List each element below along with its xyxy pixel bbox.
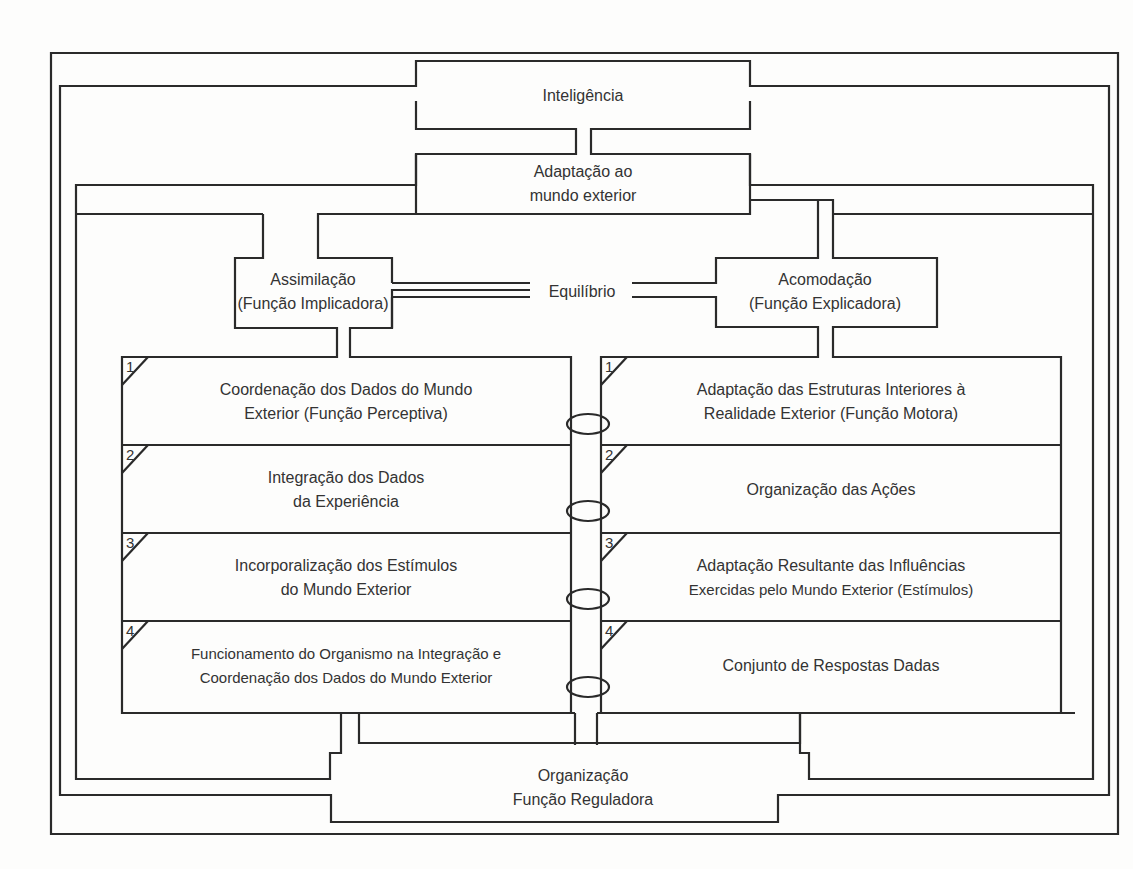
organization-label-1: Organização: [538, 764, 629, 788]
diagram-canvas: Inteligência Adaptação ao mundo exterior…: [0, 0, 1133, 869]
left-row-1-line2: Exterior (Função Perceptiva): [244, 402, 448, 426]
adaptation-label-2: mundo exterior: [530, 184, 637, 208]
right-row-3-line2: Exercidas pelo Mundo Exterior (Estímulos…: [689, 578, 973, 602]
left-row-4-line1: Funcionamento do Organismo na Integração…: [191, 642, 501, 666]
accommodation-label-1: Acomodação: [778, 268, 871, 292]
right-row-3-number: 3: [605, 534, 613, 551]
left-row-2-line1: Integração dos Dados: [268, 466, 425, 490]
left-row-3-number: 3: [126, 534, 134, 551]
right-row-4-line1: Conjunto de Respostas Dadas: [722, 654, 939, 678]
left-row-2-number: 2: [126, 446, 134, 463]
right-row-1-line2: Realidade Exterior (Função Motora): [704, 402, 958, 426]
right-row-4-number: 4: [605, 622, 613, 639]
assimilation-label-1: Assimilação: [270, 268, 355, 292]
right-row-3-line1: Adaptação Resultante das Influências: [697, 554, 966, 578]
organization-inner-box: [359, 713, 800, 743]
equilibrium-label: Equilíbrio: [549, 280, 616, 304]
left-row-2-line2: da Experiência: [293, 490, 399, 514]
right-row-2-number: 2: [605, 446, 613, 463]
accommodation-label-2: (Função Explicadora): [749, 292, 901, 316]
left-row-3-line1: Incorporalização dos Estímulos: [235, 554, 457, 578]
adaptation-label-1: Adaptação ao: [534, 160, 633, 184]
ring-connectors: [567, 414, 609, 697]
right-row-1-number: 1: [605, 358, 613, 375]
organization-label-2: Função Reguladora: [513, 788, 654, 812]
right-row-1-line1: Adaptação das Estruturas Interiores à: [697, 378, 966, 402]
assimilation-label-2: (Função Implicadora): [237, 292, 388, 316]
left-row-3-line2: do Mundo Exterior: [281, 578, 412, 602]
left-row-1-number: 1: [126, 358, 134, 375]
left-row-4-number: 4: [126, 622, 134, 639]
left-row-1-line1: Coordenação dos Dados do Mundo: [220, 378, 473, 402]
intelligence-label: Inteligência: [543, 84, 624, 108]
left-corner-slashes: [122, 357, 148, 649]
right-row-2-line1: Organização das Ações: [747, 478, 916, 502]
diagram-lines: [0, 0, 1133, 869]
left-row-4-line2: Coordenação dos Dados do Mundo Exterior: [200, 666, 493, 690]
